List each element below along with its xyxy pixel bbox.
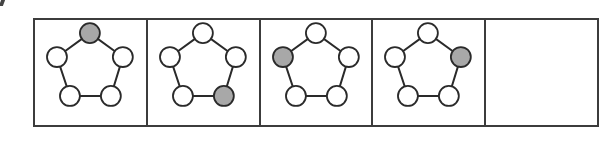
- puzzle-strip: [33, 18, 599, 127]
- puzzle-cell-2: [148, 20, 261, 125]
- node-top: [418, 23, 438, 43]
- puzzle-cell-answer-blank: [486, 20, 597, 125]
- pentagon-graph: [35, 20, 146, 125]
- node-lower-left: [60, 86, 80, 106]
- puzzle-cell-4: [373, 20, 486, 125]
- pentagon-graph: [373, 20, 484, 125]
- node-lower-right: [326, 86, 346, 106]
- shaded-node-lower-right: [214, 86, 234, 106]
- node-lower-left: [398, 86, 418, 106]
- node-upper-left: [47, 47, 67, 67]
- node-lower-left: [173, 86, 193, 106]
- node-upper-right: [113, 47, 133, 67]
- node-upper-left: [385, 47, 405, 67]
- node-lower-right: [439, 86, 459, 106]
- node-lower-right: [101, 86, 121, 106]
- puzzle-cell-1: [35, 20, 148, 125]
- shaded-node-top: [80, 23, 100, 43]
- node-top: [306, 23, 326, 43]
- puzzle-cell-3: [261, 20, 374, 125]
- node-upper-right: [338, 47, 358, 67]
- node-lower-left: [286, 86, 306, 106]
- corner-mark: [0, 0, 5, 6]
- node-upper-left: [160, 47, 180, 67]
- node-upper-right: [226, 47, 246, 67]
- shaded-node-upper-right: [451, 47, 471, 67]
- shaded-node-upper-left: [273, 47, 293, 67]
- pentagon-graph: [148, 20, 259, 125]
- node-top: [193, 23, 213, 43]
- pentagon-graph: [261, 20, 372, 125]
